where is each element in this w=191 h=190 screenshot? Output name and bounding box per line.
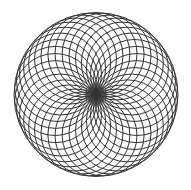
- rosette-diagram: [0, 0, 191, 190]
- figure-canvas: [0, 0, 191, 190]
- rosette-circles: [14, 13, 178, 177]
